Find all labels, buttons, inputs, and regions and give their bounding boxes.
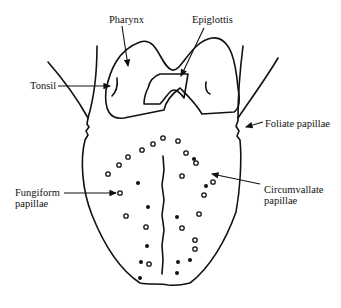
fungiform-papilla-dot [193,238,197,242]
fungiform-papilla-dot [202,193,206,197]
tonsil-right-mark [206,82,210,94]
filled-papilla-dot [204,184,208,188]
circumvallate-papillae-label-line1: Circumvallate [264,184,323,195]
fungiform-papilla-dot [211,180,215,184]
filled-papilla-dot [145,244,149,248]
pharynx-leader [122,26,128,66]
fungiform-papilla-dot [193,247,197,251]
fungiform-papillae-group [106,136,215,266]
tonsil-left-mark [112,78,117,96]
foliate-papillae-leader [246,122,263,127]
epiglottis-label: Epiglottis [192,14,233,25]
fungiform-papilla-dot [151,142,155,146]
circumvallate-papillae-group [136,157,208,280]
fungiform-papilla-dot [140,148,144,152]
filled-papilla-dot [175,215,179,219]
median-sulcus [162,156,164,274]
filled-papilla-dot [139,260,143,264]
tongue-diagram [0,0,341,308]
left-wall-inner [88,46,97,118]
fungiform-papilla-dot [180,174,184,178]
fungiform-papilla-dot [161,136,165,140]
fungiform-papilla-dot [106,172,110,176]
fungiform-papillae-label-line1: Fungiform [15,187,60,198]
filled-papilla-dot [146,205,150,209]
pharynx-label: Pharynx [109,14,144,25]
fungiform-papilla-dot [118,191,122,195]
fungiform-papilla-dot [194,161,198,165]
filled-papilla-dot [188,258,192,262]
fungiform-papilla-dot [144,225,148,229]
filled-papilla-dot [192,157,196,161]
circumvallate-papillae-label-line2: papillae [264,195,297,206]
filled-papilla-dot [136,181,140,185]
fungiform-papilla-dot [117,163,121,167]
fungiform-papilla-dot [180,226,184,230]
fungiform-papilla-dot [176,139,180,143]
epiglottis-leader [181,28,204,76]
fungiform-papilla-dot [197,212,201,216]
fungiform-papilla-dot [184,151,188,155]
fungiform-papilla-dot [147,262,151,266]
fungiform-papilla-dot [124,214,128,218]
fungiform-papillae-label-line2: papillae [15,198,48,209]
filled-papilla-dot [175,271,179,275]
filled-papilla-dot [138,276,142,280]
fungiform-papilla-dot [126,155,130,159]
foliate-papillae-label: Foliate papillae [265,118,330,129]
tonsil-label: Tonsil [30,80,56,91]
circumvallate-papillae-leader [212,174,260,184]
right-wall-outer [238,58,278,118]
filled-papilla-dot [176,260,180,264]
tongue-outline [82,118,240,285]
